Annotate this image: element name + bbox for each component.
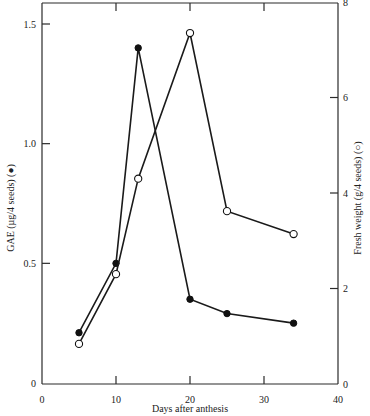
- filled-circle-marker: [135, 45, 141, 51]
- left-y-tick-label: 0.5: [24, 258, 37, 269]
- left-y-tick-label: 0: [31, 378, 36, 389]
- filled-circle-marker: [290, 320, 296, 326]
- chart: 010203040 00.51.01.5 02468 Days after an…: [0, 0, 370, 416]
- open-circle-marker: [290, 230, 297, 237]
- series-line: [79, 33, 294, 344]
- right-y-tick-label: 2: [343, 283, 348, 294]
- open-circle-marker: [223, 208, 230, 215]
- x-axis-ticks: 010203040: [40, 3, 344, 405]
- left-y-tick-label: 1.0: [24, 138, 37, 149]
- right-y-tick-label: 8: [343, 0, 348, 8]
- open-circle-marker: [186, 29, 193, 36]
- left-y-axis-title: GAE (µg/4 seeds) (●): [5, 164, 17, 252]
- series-line: [79, 48, 294, 333]
- series-fresh-weight: [75, 29, 297, 347]
- series-gae: [76, 45, 297, 336]
- x-axis-title: Days after anthesis: [152, 403, 228, 414]
- filled-circle-marker: [76, 330, 82, 336]
- right-y-tick-label: 6: [343, 92, 348, 103]
- left-y-axis-ticks: 00.51.01.5: [24, 19, 51, 389]
- open-circle-marker: [75, 340, 82, 347]
- filled-circle-marker: [187, 296, 193, 302]
- x-tick-label: 10: [111, 394, 121, 405]
- series-layer: [75, 29, 297, 347]
- right-y-tick-label: 0: [343, 379, 348, 390]
- filled-circle-marker: [224, 310, 230, 316]
- x-tick-label: 0: [40, 394, 45, 405]
- open-circle-marker: [112, 271, 119, 278]
- x-tick-label: 30: [259, 394, 269, 405]
- left-y-tick-label: 1.5: [24, 19, 37, 30]
- right-y-axis-ticks: 02468: [330, 0, 348, 390]
- right-y-tick-label: 4: [343, 188, 348, 199]
- right-y-axis-title: Fresh weight (g/4 seeds) (○): [352, 141, 364, 254]
- open-circle-marker: [135, 175, 142, 182]
- x-tick-label: 40: [333, 394, 343, 405]
